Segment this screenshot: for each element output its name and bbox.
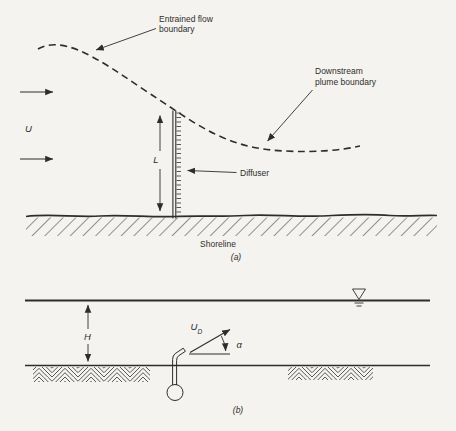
caption-part-a: (a) <box>231 252 242 262</box>
shoreline-wavy-line <box>26 215 437 217</box>
section-view-part-b: H U D α (b) <box>25 289 430 415</box>
depth-label: H <box>84 331 91 342</box>
seabed-hatching-left <box>33 367 150 382</box>
seabed-hatching-right <box>288 367 373 380</box>
shoreline-label: Shoreline <box>200 239 236 249</box>
diffuser-port-ticks <box>177 113 182 217</box>
shoreline-hatching <box>26 218 437 237</box>
entrained-flow-label-line2: boundary <box>159 24 195 34</box>
discharge-velocity-subscript: D <box>198 328 203 335</box>
diffuser-plume-figure: Entrained flow boundary Downstream plume… <box>0 0 456 431</box>
plume-boundary-curve <box>38 45 360 152</box>
caption-part-b: (b) <box>233 405 244 415</box>
diffuser-length-label: L <box>153 154 158 165</box>
discharge-velocity-label: U <box>191 321 198 332</box>
water-level-icon <box>353 289 366 306</box>
angle-arc-arrow <box>221 336 225 351</box>
diffuser-leader-arrow <box>188 171 237 173</box>
downstream-plume-leader-arrow <box>268 90 313 141</box>
entrained-flow-label-line1: Entrained flow <box>159 14 214 24</box>
riser-ball-joint <box>167 385 183 401</box>
riser-port-outline <box>173 348 186 385</box>
plan-view-part-a: Entrained flow boundary Downstream plume… <box>20 14 437 262</box>
ambient-velocity-label: U <box>25 123 32 134</box>
diffuser-label: Diffuser <box>240 168 269 178</box>
figure-canvas: Entrained flow boundary Downstream plume… <box>0 0 456 431</box>
downstream-plume-label-line1: Downstream <box>315 66 363 76</box>
downstream-plume-label-line2: plume boundary <box>315 77 377 87</box>
entrained-flow-leader-arrow <box>96 29 156 51</box>
discharge-angle-label: α <box>237 339 243 350</box>
